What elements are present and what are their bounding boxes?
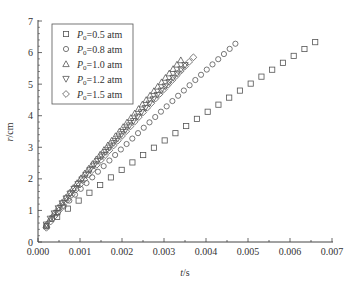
- data-point: [153, 114, 158, 119]
- data-point: [187, 83, 192, 88]
- data-point: [173, 131, 178, 136]
- data-point: [227, 46, 232, 51]
- x-tick-label: 0.007: [321, 246, 344, 257]
- x-tick-label: 0.005: [237, 246, 260, 257]
- data-point: [101, 163, 106, 168]
- data-point: [164, 104, 169, 109]
- y-tick-label: 0: [28, 237, 33, 248]
- y-tick-label: 2: [28, 173, 33, 184]
- data-point: [162, 138, 167, 143]
- y-tick-label: 3: [28, 142, 33, 153]
- data-point: [233, 41, 238, 46]
- data-point: [205, 109, 210, 114]
- x-tick-label: 0.006: [279, 246, 302, 257]
- data-point: [141, 125, 146, 130]
- data-point: [124, 141, 129, 146]
- y-tick-label: 4: [28, 110, 33, 121]
- data-point: [87, 190, 92, 195]
- data-point: [174, 61, 180, 67]
- data-point: [280, 60, 285, 65]
- data-point: [204, 67, 209, 72]
- data-point: [170, 98, 175, 103]
- data-point: [151, 145, 156, 150]
- data-point: [210, 62, 215, 67]
- data-point: [259, 74, 264, 79]
- data-point: [181, 88, 186, 93]
- data-point: [135, 131, 140, 136]
- data-point: [141, 152, 146, 157]
- data-point: [216, 57, 221, 62]
- data-point: [158, 109, 163, 114]
- chart-canvas: 0.0000.0010.0020.0030.0040.0050.0060.007…: [0, 0, 361, 288]
- data-point: [221, 51, 226, 56]
- y-tick-label: 5: [28, 79, 33, 90]
- data-point: [118, 147, 123, 152]
- data-point: [190, 54, 197, 61]
- y-axis-label: r/cm: [4, 122, 15, 141]
- data-point: [147, 120, 152, 125]
- y-tick-label: 1: [28, 205, 33, 216]
- data-point: [216, 102, 221, 107]
- data-point: [198, 72, 203, 77]
- data-point: [113, 152, 118, 157]
- data-point: [227, 95, 232, 100]
- data-point: [237, 88, 242, 93]
- data-point: [98, 182, 103, 187]
- data-point: [178, 57, 184, 63]
- x-tick-label: 0.000: [27, 246, 50, 257]
- data-point: [194, 116, 199, 121]
- data-point: [108, 175, 113, 180]
- x-tick-label: 0.001: [69, 246, 92, 257]
- data-point: [107, 158, 112, 163]
- x-axis-label: t/s: [180, 267, 190, 278]
- data-point: [76, 198, 81, 203]
- y-tick-label: 7: [28, 16, 33, 27]
- x-tick-label: 0.002: [111, 246, 134, 257]
- x-tick-label: 0.003: [153, 246, 176, 257]
- legend: P0=0.5 atmP0=0.8 atmP0=1.0 atmP0=1.2 atm…: [52, 24, 133, 104]
- data-point: [130, 136, 135, 141]
- data-point: [270, 67, 275, 72]
- data-point: [170, 66, 176, 72]
- data-point: [193, 77, 198, 82]
- data-point: [186, 58, 193, 65]
- data-point: [119, 167, 124, 172]
- data-point: [130, 160, 135, 165]
- data-point: [248, 81, 253, 86]
- data-point: [313, 40, 318, 45]
- data-point: [184, 123, 189, 128]
- data-point: [302, 46, 307, 51]
- y-tick-label: 6: [28, 47, 33, 58]
- data-point: [176, 93, 181, 98]
- x-tick-label: 0.004: [195, 246, 218, 257]
- data-point: [291, 53, 296, 58]
